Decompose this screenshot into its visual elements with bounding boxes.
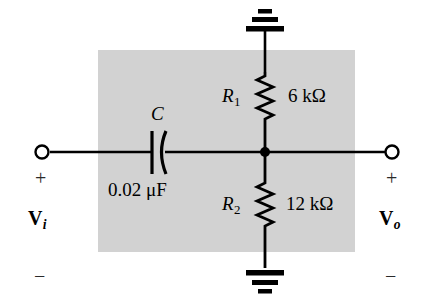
resistor-r1-designator-letter: R xyxy=(222,85,234,106)
circuit-schematic-canvas xyxy=(0,0,427,305)
resistor-r2-designator-letter: R xyxy=(222,193,234,214)
output-voltage-label: Vo xyxy=(379,208,400,228)
output-positive-sign: + xyxy=(386,168,397,188)
output-terminal-node xyxy=(386,146,399,159)
input-voltage-letter: V xyxy=(28,207,42,229)
capacitor-value-label: 0.02 μF xyxy=(108,180,167,199)
resistor-r1-designator-subscript: 1 xyxy=(234,94,240,109)
input-positive-sign: + xyxy=(35,168,46,188)
circuit-diagram-figure: C 0.02 μF R1 6 kΩ R2 12 kΩ + Vi − + Vo − xyxy=(0,0,427,305)
ground-symbol-bottom xyxy=(246,270,284,294)
output-negative-sign: − xyxy=(385,266,396,286)
resistor-r2-designator-label: R2 xyxy=(222,194,240,213)
resistor-r1-value-label: 6 kΩ xyxy=(288,86,326,105)
resistor-r2-value-label: 12 kΩ xyxy=(286,194,333,213)
input-terminal-node xyxy=(36,146,49,159)
input-voltage-label: Vi xyxy=(28,208,46,228)
input-voltage-subscript: i xyxy=(43,217,47,232)
input-negative-sign: − xyxy=(34,266,45,286)
junction-dot xyxy=(260,147,270,157)
capacitor-designator-label: C xyxy=(151,104,164,123)
output-voltage-letter: V xyxy=(379,207,393,229)
resistor-r1-designator-label: R1 xyxy=(222,86,240,105)
resistor-r2-designator-subscript: 2 xyxy=(234,202,240,217)
output-voltage-subscript: o xyxy=(394,217,401,232)
